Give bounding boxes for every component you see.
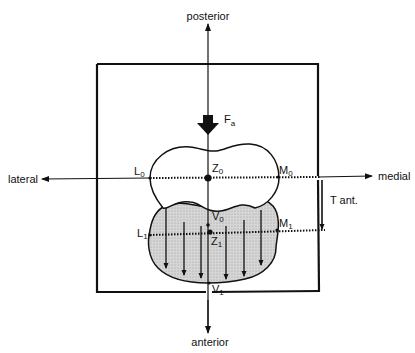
label-M1: M1 <box>279 217 293 231</box>
point-Z0 <box>205 175 212 182</box>
label-medial: medial <box>378 170 410 182</box>
point-V1 <box>207 281 210 284</box>
horizontal-axis-left <box>42 178 150 179</box>
horizontal-axis-right <box>318 176 372 177</box>
label-anterior: anterior <box>191 336 229 348</box>
point-L1 <box>148 233 151 236</box>
force-arrow <box>197 115 219 135</box>
point-L0 <box>148 176 151 179</box>
point-V0 <box>206 223 210 227</box>
diagram-canvas: posterior anterior lateral medial Fa T a… <box>0 0 415 353</box>
label-force: Fa <box>224 113 236 128</box>
label-L0: L0 <box>134 165 145 179</box>
label-M0: M0 <box>279 164 293 178</box>
label-L1: L1 <box>137 227 148 241</box>
label-lateral: lateral <box>8 173 38 185</box>
point-Z1 <box>207 229 212 234</box>
label-translation: T ant. <box>330 194 358 206</box>
label-V1: V1 <box>212 283 224 297</box>
label-posterior: posterior <box>187 10 230 22</box>
